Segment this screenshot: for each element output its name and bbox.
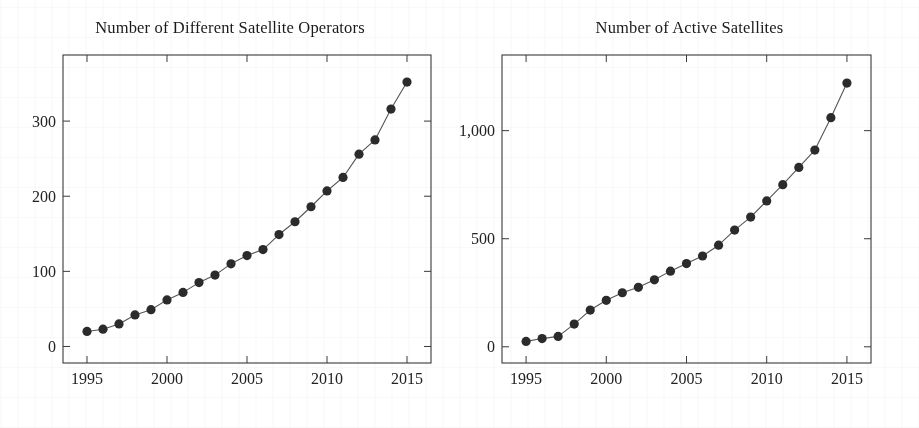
data-line bbox=[526, 83, 847, 341]
data-point-marker bbox=[290, 217, 299, 226]
chart-panel-operators: Number of Different Satellite Operators … bbox=[0, 0, 460, 428]
data-point-marker bbox=[258, 245, 267, 254]
data-point-marker bbox=[554, 332, 563, 341]
data-point-marker bbox=[306, 202, 315, 211]
data-point-marker bbox=[98, 325, 107, 334]
data-point-marker bbox=[730, 225, 739, 234]
data-point-marker bbox=[386, 104, 395, 113]
data-point-marker bbox=[650, 275, 659, 284]
data-point-marker bbox=[682, 259, 691, 268]
x-axis-tick-label: 2015 bbox=[391, 370, 423, 387]
x-axis-tick-label: 2010 bbox=[751, 370, 783, 387]
data-point-marker bbox=[322, 186, 331, 195]
x-axis-tick-label: 2010 bbox=[311, 370, 343, 387]
chart-root: 010020030019952000200520102015 bbox=[32, 55, 431, 387]
y-axis-tick-label: 500 bbox=[471, 230, 495, 247]
plot-frame bbox=[63, 55, 431, 363]
data-point-marker bbox=[274, 230, 283, 239]
data-point-marker bbox=[826, 113, 835, 122]
chart-root: 05001,00019952000200520102015 bbox=[460, 55, 871, 387]
chart-panel-satellites: Number of Active Satellites 05001,000199… bbox=[460, 0, 919, 428]
data-point-marker bbox=[242, 251, 251, 260]
data-point-marker bbox=[570, 319, 579, 328]
data-point-marker bbox=[618, 288, 627, 297]
data-point-marker bbox=[698, 251, 707, 260]
data-point-marker bbox=[210, 271, 219, 280]
data-point-marker bbox=[634, 283, 643, 292]
y-axis-tick-label: 300 bbox=[32, 113, 56, 130]
x-axis-tick-label: 2000 bbox=[590, 370, 622, 387]
x-axis-tick-label: 2005 bbox=[671, 370, 703, 387]
data-point-marker bbox=[666, 267, 675, 276]
data-point-marker bbox=[354, 150, 363, 159]
data-point-marker bbox=[114, 319, 123, 328]
y-axis-tick-label: 200 bbox=[32, 188, 56, 205]
data-point-marker bbox=[194, 278, 203, 287]
x-axis-tick-label: 2000 bbox=[151, 370, 183, 387]
y-axis-tick-label: 1,000 bbox=[460, 122, 495, 139]
data-point-marker bbox=[226, 259, 235, 268]
data-point-marker bbox=[842, 79, 851, 88]
data-point-marker bbox=[586, 305, 595, 314]
data-point-marker bbox=[370, 135, 379, 144]
data-point-marker bbox=[130, 310, 139, 319]
data-point-marker bbox=[810, 146, 819, 155]
y-axis-tick-label: 0 bbox=[48, 338, 56, 355]
y-axis-tick-label: 100 bbox=[32, 263, 56, 280]
data-point-marker bbox=[778, 180, 787, 189]
x-axis-tick-label: 2005 bbox=[231, 370, 263, 387]
data-point-marker bbox=[146, 305, 155, 314]
data-point-marker bbox=[521, 337, 530, 346]
x-axis-tick-label: 1995 bbox=[71, 370, 103, 387]
x-axis-tick-label: 1995 bbox=[510, 370, 542, 387]
data-point-marker bbox=[794, 163, 803, 172]
plot-area-satellites: 05001,00019952000200520102015 bbox=[460, 0, 919, 428]
data-point-marker bbox=[402, 77, 411, 86]
data-point-marker bbox=[602, 296, 611, 305]
data-point-marker bbox=[178, 288, 187, 297]
data-point-marker bbox=[746, 213, 755, 222]
data-line bbox=[87, 82, 407, 331]
plot-area-operators: 010020030019952000200520102015 bbox=[0, 0, 460, 428]
x-axis-tick-label: 2015 bbox=[831, 370, 863, 387]
y-axis-tick-label: 0 bbox=[487, 338, 495, 355]
data-point-marker bbox=[714, 241, 723, 250]
data-point-marker bbox=[538, 334, 547, 343]
data-point-marker bbox=[762, 196, 771, 205]
data-point-marker bbox=[82, 327, 91, 336]
plot-frame bbox=[502, 55, 871, 363]
data-point-marker bbox=[338, 173, 347, 182]
data-point-marker bbox=[162, 295, 171, 304]
